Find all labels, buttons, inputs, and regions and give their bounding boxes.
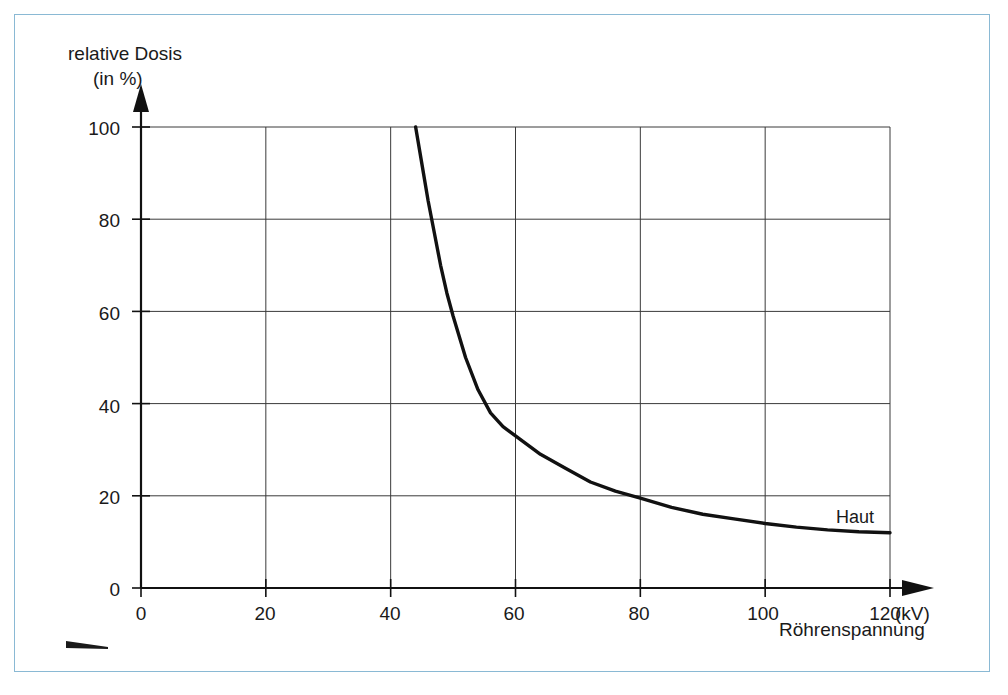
axis-ticks [132,127,890,597]
gridlines [141,127,890,588]
y-axis-arrowhead [133,84,149,112]
x-axis-arrowhead [902,580,934,596]
chart-canvas [0,0,1008,695]
data-series-haut [416,127,890,533]
corner-dash-mark [66,641,108,649]
axes [141,98,925,588]
page-background: relative Dosis (in %) 100 80 60 40 20 0 … [0,0,1008,695]
